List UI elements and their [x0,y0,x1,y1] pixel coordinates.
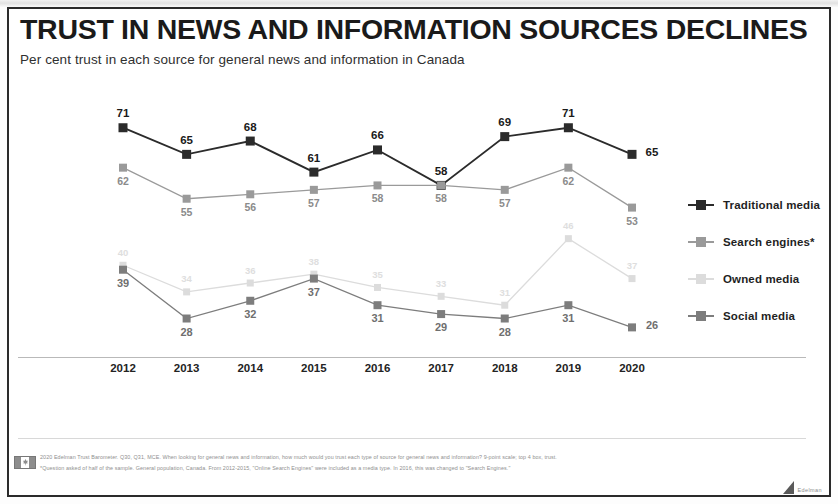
series-marker [501,186,509,194]
legend-item-2[interactable]: Owned media [688,260,834,297]
footnote-text: 2020 Edelman Trust Barometer. Q30, Q31, … [40,452,580,473]
series-marker [183,315,191,323]
series-marker [119,266,127,274]
slide-canvas: TRUST IN NEWS AND INFORMATION SOURCES DE… [0,0,838,504]
x-axis-label-2019: 2019 [556,362,582,374]
series-marker [373,145,382,154]
series-marker [564,123,573,132]
legend-swatch-icon [688,310,714,322]
maple-leaf-icon [23,459,28,466]
x-axis-tick-labels: 201220132014201520162017201820192020 [18,362,658,384]
series-line-2 [123,239,632,306]
legend-label: Traditional media [723,199,820,211]
footer-divider [18,438,806,439]
series-marker [374,181,382,189]
x-axis-label-2012: 2012 [110,362,136,374]
edelman-wordmark: Edelman [797,487,822,494]
series-marker [310,186,318,194]
legend-marker [696,237,706,247]
x-axis-label-2016: 2016 [365,362,391,374]
series-marker [183,195,191,203]
x-axis-label-2014: 2014 [237,362,263,374]
legend-item-3[interactable]: Social media [688,297,834,334]
legend-marker [696,274,706,284]
page-subtitle: Per cent trust in each source for genera… [20,52,780,67]
series-marker [564,301,572,309]
series-marker [438,293,445,300]
series-marker [119,123,128,132]
canada-flag-icon [14,456,36,469]
page-title: TRUST IN NEWS AND INFORMATION SOURCES DE… [20,14,820,44]
series-marker [310,275,318,283]
x-axis-label-2015: 2015 [301,362,327,374]
x-axis-label-2020: 2020 [619,362,645,374]
legend-label: Social media [723,310,795,322]
series-marker [437,310,445,318]
series-marker [501,315,509,323]
edelman-mark-icon [783,481,794,494]
legend-swatch-icon [688,199,714,211]
series-marker [628,150,637,159]
x-axis-line [18,357,806,358]
series-marker [565,235,572,242]
series-line-0 [123,128,632,186]
edelman-logo: Edelman [783,481,822,494]
series-marker [374,284,381,291]
series-marker [564,164,572,172]
series-marker [246,137,255,146]
series-marker [501,302,508,309]
legend-swatch-icon [688,236,714,248]
legend-label: Search engines* [723,236,815,248]
series-marker [629,275,636,282]
series-marker [119,164,127,172]
chart-legend: Traditional mediaSearch engines*Owned me… [688,186,834,334]
series-marker [374,301,382,309]
scan-edge-artifact [0,0,838,7]
series-marker [246,190,254,198]
legend-swatch-icon [688,273,714,285]
line-chart-plot-area: 7165686166586971656255565758585762534034… [18,100,658,358]
series-marker [183,288,190,295]
x-axis-label-2018: 2018 [492,362,518,374]
series-marker [246,297,254,305]
flag-band-right [29,457,35,468]
series-marker [182,150,191,159]
series-marker [628,323,636,331]
series-marker [247,280,254,287]
legend-item-1[interactable]: Search engines* [688,223,834,260]
x-axis-label-2013: 2013 [174,362,200,374]
chart-series-svg [18,100,658,358]
legend-marker [696,200,706,210]
legend-label: Owned media [723,273,799,285]
x-axis-label-2017: 2017 [428,362,454,374]
series-marker [309,168,318,177]
series-marker [628,204,636,212]
legend-item-0[interactable]: Traditional media [688,186,834,223]
series-line-3 [123,270,632,328]
flag-band-left [15,457,21,468]
series-marker [500,132,509,141]
legend-marker [696,311,706,321]
series-marker [437,181,445,189]
